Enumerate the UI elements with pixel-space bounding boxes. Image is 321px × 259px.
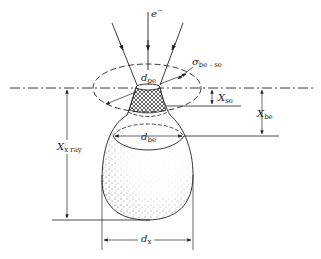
electron-label: e− (151, 7, 163, 19)
incident-beam (112, 12, 183, 85)
sigma-be-se-label: σbe - se (192, 56, 222, 69)
d-pe-label: dpe (141, 72, 156, 85)
svg-text:Xse: Xse (217, 92, 233, 105)
svg-text:Xbe: Xbe (256, 108, 273, 121)
secondary-electron-region (129, 87, 166, 113)
x-se-dimension: Xse (166, 90, 241, 106)
interaction-volume-diagram: e− dpe σbe - se Xse Xbe dbe Xx ray dx (0, 0, 321, 259)
